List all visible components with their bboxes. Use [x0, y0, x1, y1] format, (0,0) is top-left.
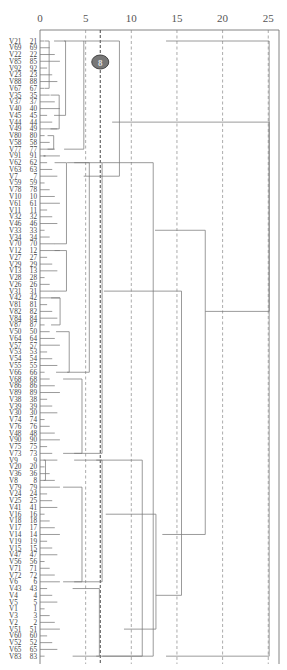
dendrogram-chart: 0510152025 V2121V6969V2222V8585V9292V232…: [0, 0, 287, 670]
dendrogram-branches: [40, 41, 269, 656]
badge-text: 8: [98, 58, 103, 68]
leaf-name: V83: [9, 653, 22, 661]
tick-label: 10: [126, 12, 138, 24]
grid-lines: [86, 30, 269, 664]
cluster-count-badge: 8: [92, 55, 109, 69]
tick-label: 25: [263, 12, 275, 24]
leaf-labels: V2121V6969V2222V8585V9292V2323V8888V6767…: [9, 38, 37, 661]
tick-label: 0: [37, 12, 43, 24]
tick-label: 20: [217, 12, 229, 24]
tick-label: 5: [83, 12, 89, 24]
leaf-id: 83: [30, 653, 38, 661]
x-axis: 0510152025: [37, 12, 279, 664]
tick-label: 15: [171, 12, 183, 24]
